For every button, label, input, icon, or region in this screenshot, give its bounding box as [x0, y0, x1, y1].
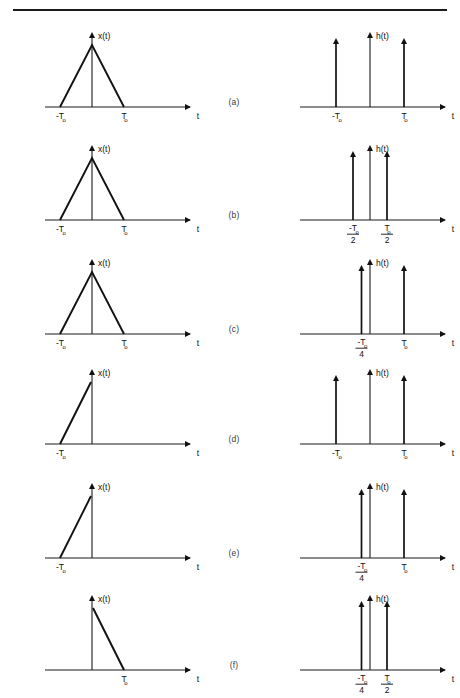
value-axis-arrow	[89, 595, 95, 601]
time-axis-label: t	[452, 338, 455, 348]
value-axis-arrow	[367, 32, 373, 38]
right-panel-e: th(t)-To4To	[288, 466, 460, 581]
function-label: x(t)	[98, 31, 110, 41]
impulse-tick-label-0-subscript: o	[338, 117, 342, 123]
impulse-tick-label-0-subscript: o	[364, 567, 368, 573]
time-axis-arrow	[440, 441, 446, 447]
row-label-b: (b)	[219, 210, 249, 220]
time-axis-label: t	[197, 674, 200, 684]
impulse-tick-label-1-subscript: o	[404, 344, 408, 350]
row-label-d: (d)	[219, 434, 249, 444]
time-axis-arrow	[440, 331, 446, 337]
x-signal-plot-a: tx(t)-ToTo	[30, 15, 205, 130]
axis-tick-label-1-subscript: o	[124, 117, 128, 123]
value-axis-arrow	[367, 483, 373, 489]
value-axis-arrow	[367, 145, 373, 151]
axis-tick-label-1: To	[121, 111, 128, 123]
value-axis-arrow	[367, 259, 373, 265]
time-axis-label: t	[452, 448, 455, 458]
time-axis-label: t	[452, 224, 455, 234]
signal-waveform	[60, 496, 91, 558]
impulse-arrow	[350, 151, 356, 157]
time-axis-label: t	[452, 111, 455, 121]
h-signal-plot-e: th(t)-To4To	[288, 466, 460, 581]
impulse-arrow	[359, 489, 365, 495]
time-axis-arrow	[185, 217, 191, 223]
right-panel-c: th(t)-To4To	[288, 242, 460, 357]
impulse-tick-label-0-subscript: o	[338, 454, 342, 460]
axis-tick-label-0-subscript: o	[62, 344, 66, 350]
axis-tick-label-0-subscript: o	[124, 680, 128, 686]
left-panel-a: tx(t)-ToTo	[30, 15, 205, 130]
impulse-arrow	[401, 265, 407, 271]
axis-tick-label-0: -To	[56, 448, 66, 460]
function-label: x(t)	[98, 258, 110, 268]
time-axis-label: t	[197, 111, 200, 121]
left-panel-d: tx(t)-To	[30, 352, 205, 467]
h-signal-plot-f: th(t)-To4To2	[288, 578, 460, 693]
time-axis-label: t	[197, 338, 200, 348]
figure-row-b: tx(t)-ToTo(b)th(t)-To2To2	[0, 128, 460, 243]
impulse-tick-label-1: To2	[381, 673, 393, 695]
time-axis-label: t	[197, 448, 200, 458]
time-axis-arrow	[185, 555, 191, 561]
x-signal-plot-b: tx(t)-ToTo	[30, 128, 205, 243]
impulse-tick-label-0: -To	[332, 111, 342, 123]
impulse-tick-label-0-subscript: o	[364, 679, 368, 685]
h-signal-plot-a: th(t)-ToTo	[288, 15, 460, 130]
impulse-arrow	[333, 38, 339, 44]
impulse-arrow	[401, 38, 407, 44]
h-signal-plot-c: th(t)-To4To	[288, 242, 460, 357]
impulse-tick-label-1-denominator: 2	[385, 685, 390, 695]
value-axis-arrow	[89, 259, 95, 265]
axis-tick-label-0: -To	[56, 338, 66, 350]
impulse-arrow	[401, 375, 407, 381]
row-label-e: (e)	[219, 548, 249, 558]
axis-tick-label-0-subscript: o	[62, 117, 66, 123]
top-rule-divider	[13, 9, 447, 11]
left-panel-e: tx(t)-To	[30, 466, 205, 581]
value-axis-arrow	[89, 369, 95, 375]
x-signal-plot-c: tx(t)-ToTo	[30, 242, 205, 357]
time-axis-label: t	[452, 562, 455, 572]
row-label-c: (c)	[219, 324, 249, 334]
figure-row-e: tx(t)-To(e)th(t)-To4To	[0, 466, 460, 581]
value-axis-arrow	[89, 145, 95, 151]
axis-tick-label-0: -To	[56, 111, 66, 123]
right-panel-d: th(t)-ToTo	[288, 352, 460, 467]
impulse-arrow	[333, 375, 339, 381]
figure-page: tx(t)-ToTo(a)th(t)-ToTotx(t)-ToTo(b)th(t…	[0, 0, 460, 698]
function-label: h(t)	[376, 31, 389, 41]
row-label-f: (f)	[219, 660, 249, 670]
time-axis-label: t	[197, 562, 200, 572]
right-panel-f: th(t)-To4To2	[288, 578, 460, 693]
impulse-tick-label-0-subscript: o	[355, 229, 359, 235]
time-axis-label: t	[452, 674, 455, 684]
impulse-tick-label-0: -To	[332, 448, 342, 460]
figure-row-a: tx(t)-ToTo(a)th(t)-ToTo	[0, 15, 460, 130]
signal-waveform	[93, 608, 124, 670]
time-axis-label: t	[197, 224, 200, 234]
axis-tick-label-0: -To	[56, 562, 66, 574]
function-label: x(t)	[98, 144, 110, 154]
function-label: x(t)	[98, 368, 110, 378]
time-axis-arrow	[440, 104, 446, 110]
axis-tick-label-0-subscript: o	[62, 454, 66, 460]
impulse-tick-label-0-denominator: 4	[359, 685, 364, 695]
axis-tick-label-0: -To	[56, 224, 66, 236]
x-signal-plot-e: tx(t)-To	[30, 466, 205, 581]
value-axis-arrow	[367, 369, 373, 375]
axis-tick-label-1: To	[121, 338, 128, 350]
x-signal-plot-d: tx(t)-To	[30, 352, 205, 467]
axis-tick-label-1-subscript: o	[124, 344, 128, 350]
impulse-tick-label-2-subscript: o	[404, 117, 408, 123]
function-label: h(t)	[376, 482, 389, 492]
impulse-tick-label-2: To	[401, 448, 408, 460]
impulse-tick-label-2: To	[401, 111, 408, 123]
time-axis-arrow	[185, 331, 191, 337]
impulse-arrow	[359, 265, 365, 271]
value-axis-arrow	[367, 595, 373, 601]
time-axis-arrow	[440, 667, 446, 673]
impulse-tick-label-1-subscript: o	[404, 568, 408, 574]
right-panel-b: th(t)-To2To2	[288, 128, 460, 243]
